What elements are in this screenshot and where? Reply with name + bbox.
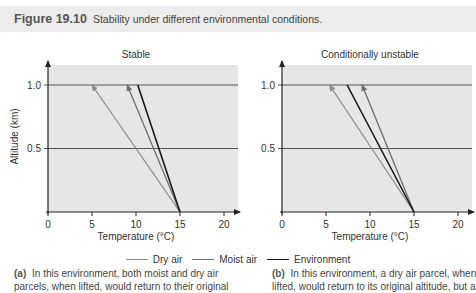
x-axis-label: Temperature (°C) [98, 231, 175, 242]
panel-title: Conditionally unstable [321, 49, 419, 60]
legend-swatch-moist-air [192, 259, 214, 260]
x-tick-label: 20 [218, 219, 230, 230]
x-tick-label: 10 [364, 219, 376, 230]
legend-item-environment: Environment [267, 254, 350, 265]
legend-label-dry-air: Dry air [153, 254, 182, 265]
legend-label-environment: Environment [294, 254, 350, 265]
x-tick-label: 0 [45, 219, 51, 230]
plot-area [282, 65, 472, 212]
x-tick-label: 15 [174, 219, 186, 230]
x-tick-label: 5 [89, 219, 95, 230]
x-tick-label: 5 [323, 219, 329, 230]
x-tick-label: 0 [279, 219, 285, 230]
legend-swatch-environment [267, 259, 289, 260]
y-axis-label: Altitude (km) [9, 108, 20, 164]
stability-charts: Stable0.51.005101520Temperature (°C)Alti… [0, 0, 476, 252]
caption-b: (b) In this environment, a dry air parce… [272, 267, 476, 293]
caption-a: (a) In this environment, both moist and … [14, 267, 236, 293]
y-tick-label: 1.0 [27, 80, 41, 91]
x-tick-label: 20 [452, 219, 464, 230]
caption-b-line1: In this environment, a dry air parcel, w… [291, 268, 476, 279]
chart-panel-conditionally-unstable: Conditionally unstable0.51.005101520Temp… [261, 49, 474, 242]
legend-label-moist-air: Moist air [219, 254, 257, 265]
legend: Dry air Moist air Environment [0, 252, 476, 266]
x-tick-label: 15 [408, 219, 420, 230]
caption-a-tag: (a) [14, 268, 26, 279]
y-tick-label: 0.5 [261, 143, 275, 154]
y-tick-label: 0.5 [27, 143, 41, 154]
caption-a-line1: In this environment, both moist and dry … [32, 268, 218, 279]
legend-swatch-dry-air [126, 259, 148, 260]
caption-a-line2: parcels, when lifted, would return to th… [14, 280, 236, 293]
chart-panel-stable: Stable0.51.005101520Temperature (°C)Alti… [9, 49, 240, 242]
legend-item-dry-air: Dry air [126, 254, 182, 265]
caption-b-line2: lifted, would return to its original alt… [272, 280, 476, 293]
plot-area [48, 65, 238, 212]
legend-item-moist-air: Moist air [192, 254, 257, 265]
panel-title: Stable [122, 49, 151, 60]
x-axis-label: Temperature (°C) [332, 231, 409, 242]
x-tick-label: 10 [130, 219, 142, 230]
y-tick-label: 1.0 [261, 80, 275, 91]
caption-b-tag: (b) [272, 268, 285, 279]
